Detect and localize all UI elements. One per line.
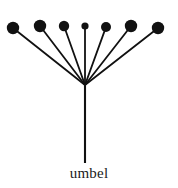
pedicel-group — [16, 29, 154, 85]
flower-node-4 — [81, 22, 88, 29]
flower-node-6 — [125, 20, 137, 32]
umbel-figure: umbel — [0, 0, 178, 188]
flower-node-1 — [7, 22, 19, 34]
flower-node-5 — [101, 22, 111, 32]
flower-node-7 — [152, 22, 164, 34]
figure-caption: umbel — [0, 163, 178, 183]
flower-node-3 — [59, 21, 69, 31]
flower-node-2 — [34, 20, 46, 32]
umbel-diagram — [0, 0, 178, 188]
